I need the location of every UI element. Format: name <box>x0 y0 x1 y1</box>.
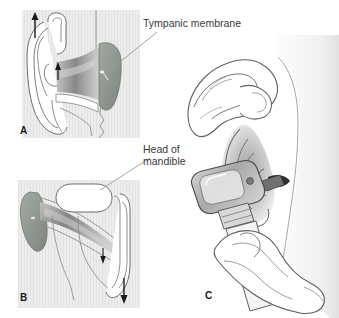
head-of-mandible-label-line2: mandible <box>143 155 186 168</box>
head-of-mandible-label-line1: Head of <box>143 143 180 156</box>
tympanic-membrane-leader-line <box>104 32 157 75</box>
tympanic-membrane-label: Tympanic membrane <box>143 17 241 30</box>
medical-illustration-figure: A <box>0 0 339 318</box>
